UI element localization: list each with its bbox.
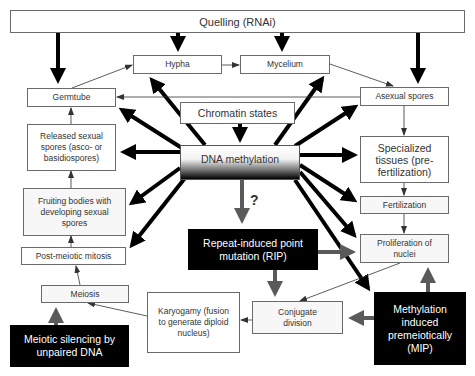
released-sexual-spores-box: Released sexual spores (asco- or basidio… — [27, 124, 116, 171]
mip-box: Methylation induced premeiotically (MIP) — [374, 292, 466, 365]
rip-label: Repeat-induced point mutation (RIP) — [189, 237, 317, 263]
meiotic-silencing-box: Meiotic silencing by unpaired DNA — [10, 325, 129, 367]
hypha-box: Hypha — [133, 55, 222, 74]
fertilization-label: Fertilization — [383, 200, 426, 211]
meiosis-label: Meiosis — [71, 289, 100, 300]
fruiting-bodies-label: Fruiting bodies with developing sexual s… — [30, 196, 119, 229]
fertilization-box: Fertilization — [360, 196, 449, 214]
meiotic-silencing-label: Meiotic silencing by unpaired DNA — [21, 333, 118, 359]
chromatin-states-box: Chromatin states — [180, 102, 295, 124]
dna-methylation-box: DNA methylation — [180, 145, 300, 180]
rip-box: Repeat-induced point mutation (RIP) — [188, 229, 318, 270]
germtube-box: Germtube — [27, 88, 116, 107]
chromatin-states-label: Chromatin states — [198, 107, 277, 119]
conjugate-division-label: Conjugate division — [269, 307, 326, 329]
proliferation-of-nuclei-box: Proliferation of nuclei — [360, 234, 449, 263]
conjugate-division-box: Conjugate division — [252, 301, 343, 334]
question-mark-annotation: ? — [250, 192, 259, 208]
dna-methylation-label: DNA methylation — [201, 154, 279, 165]
asexual-spores-label: Asexual spores — [375, 91, 433, 102]
karyogamy-box: Karyogamy (fusion to generate diploid nu… — [147, 292, 240, 353]
mycelium-box: Mycelium — [240, 55, 330, 74]
specialized-tissues-box: Specialized tissues (pre-fertilization) — [360, 136, 449, 183]
fruiting-bodies-box: Fruiting bodies with developing sexual s… — [23, 188, 126, 236]
quelling-rnai-label: Quelling (RNAi) — [199, 16, 275, 28]
asexual-spores-box: Asexual spores — [360, 87, 449, 106]
mip-label: Methylation induced premeiotically (MIP) — [381, 303, 459, 355]
mycelium-label: Mycelium — [267, 59, 303, 70]
proliferation-of-nuclei-label: Proliferation of nuclei — [367, 238, 442, 260]
released-sexual-spores-label: Released sexual spores (asco- or basidio… — [32, 131, 111, 164]
hypha-label: Hypha — [165, 59, 190, 70]
quelling-rnai-box: Quelling (RNAi) — [10, 10, 465, 33]
post-meiotic-mitosis-label: Post-meiotic mitosis — [36, 251, 112, 262]
germtube-label: Germtube — [53, 92, 91, 103]
karyogamy-label: Karyogamy (fusion to generate diploid nu… — [154, 306, 233, 339]
meiosis-box: Meiosis — [41, 285, 129, 303]
post-meiotic-mitosis-box: Post-meiotic mitosis — [21, 247, 126, 265]
specialized-tissues-label: Specialized tissues (pre-fertilization) — [365, 142, 444, 178]
